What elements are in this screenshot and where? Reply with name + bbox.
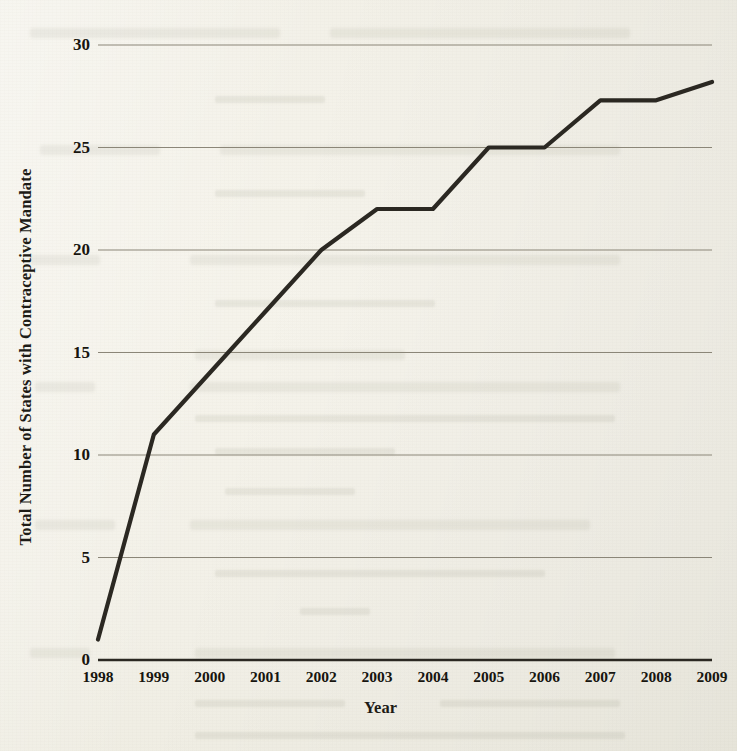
x-tick-label-2007: 2007 (585, 668, 616, 686)
x-tick-label-2008: 2008 (641, 668, 672, 686)
x-tick-label-2003: 2003 (362, 668, 393, 686)
x-tick-label-1999: 1999 (138, 668, 169, 686)
y-tick-label-15: 15 (44, 343, 90, 363)
y-tick-label-0: 0 (44, 650, 90, 670)
y-tick-label-5: 5 (44, 548, 90, 568)
x-tick-label-2002: 2002 (306, 668, 337, 686)
data-series-line (98, 82, 712, 640)
x-tick-label-1998: 1998 (83, 668, 114, 686)
x-axis-title-text: Year (364, 698, 397, 718)
x-tick-label-2005: 2005 (473, 668, 504, 686)
y-tick-label-25: 25 (44, 138, 90, 158)
y-tick-label-20: 20 (44, 240, 90, 260)
x-tick-label-2004: 2004 (417, 668, 448, 686)
y-tick-label-10: 10 (44, 445, 90, 465)
x-tick-label-2006: 2006 (529, 668, 560, 686)
x-axis-title: Year (0, 698, 737, 718)
chart-plot-area (0, 0, 737, 751)
y-gridlines (98, 45, 712, 660)
x-tick-label-2001: 2001 (250, 668, 281, 686)
line-chart: Total Number of States with Contraceptiv… (0, 0, 737, 751)
x-tick-label-2000: 2000 (194, 668, 225, 686)
x-tick-label-2009: 2009 (697, 668, 728, 686)
y-tick-label-30: 30 (44, 35, 90, 55)
